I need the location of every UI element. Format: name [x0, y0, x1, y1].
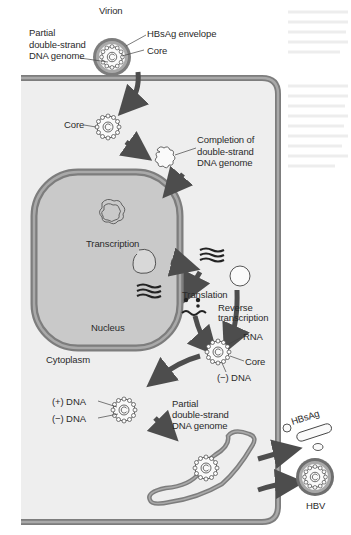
label-core-top: Core — [147, 45, 167, 56]
label-partial-genome-top: Partial double-strand DNA genome — [29, 27, 86, 62]
label-plus-dna: (+) DNA — [52, 396, 86, 407]
label-hbsag-envelope: HBsAg envelope — [147, 28, 216, 39]
virion-particle — [93, 38, 131, 76]
label-hbv: HBV — [306, 500, 325, 511]
label-rna: RNA — [243, 331, 263, 342]
hbsag-particles — [283, 423, 333, 451]
label-virion: Virion — [99, 5, 123, 16]
label-nucleus: Nucleus — [91, 322, 125, 333]
label-partial-genome-bottom: Partial double-strand DNA genome — [172, 398, 229, 431]
label-core-cytoplasm: Core — [64, 119, 84, 130]
pregenomic-rna — [230, 266, 250, 286]
label-cytoplasm: Cytoplasm — [46, 354, 90, 365]
hbv-particle — [296, 458, 334, 496]
label-translation: Translation — [182, 289, 228, 300]
label-transcription: Transcription — [86, 238, 139, 249]
label-minus-dna-rt: (−) DNA — [217, 372, 251, 383]
bleed-through-text — [288, 12, 348, 166]
label-minus-dna: (−) DNA — [52, 413, 86, 424]
label-core-rt: Core — [245, 356, 265, 367]
label-reverse-transcription: Reverse transcription — [218, 303, 268, 323]
completed-genome — [155, 147, 175, 168]
label-completion: Completion of double-strand DNA genome — [197, 134, 254, 169]
hbv-replication-diagram: Virion HBsAg envelope Core Partial doubl… — [0, 0, 351, 535]
diagram-graphics — [0, 0, 351, 535]
